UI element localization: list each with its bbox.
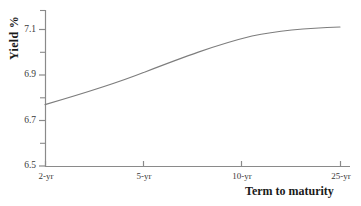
yield-curve-line (45, 27, 340, 105)
y-tick-label-6-7: 6.7 (14, 115, 36, 125)
y-axis-title-text: Yield % (7, 16, 21, 60)
x-tick-label-5yr: 5-yr (124, 171, 164, 181)
y-axis-title: Yield % (4, 8, 24, 68)
x-tick-label-2yr: 2-yr (26, 171, 66, 181)
y-tick-label-7-1: 7.1 (14, 24, 36, 34)
x-tick-label-10yr: 10-yr (222, 171, 262, 181)
yield-curve-chart: Yield % 7.1 6.9 6.7 6.5 2-yr 5-yr 10-yr … (0, 0, 361, 206)
y-tick-label-6-9: 6.9 (14, 69, 36, 79)
x-tick-label-25yr: 25-yr (321, 171, 361, 181)
y-tick-label-6-5: 6.5 (14, 160, 36, 170)
x-axis-title: Term to maturity (245, 184, 334, 199)
